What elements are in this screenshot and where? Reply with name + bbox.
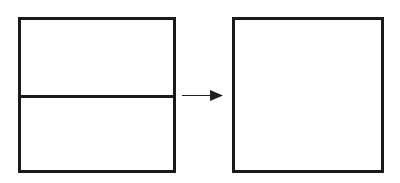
diagram-canvas [0,0,400,183]
transformation-arrow-group[interactable] [182,90,223,101]
left-upper-region[interactable] [22,21,172,94]
right-figure-group[interactable] [234,19,383,172]
left-lower-region[interactable] [22,99,172,169]
right-square-interior[interactable] [236,21,380,169]
diagram-svg [0,0,400,183]
arrow-head-icon [210,90,223,101]
left-figure-group[interactable] [20,19,175,172]
